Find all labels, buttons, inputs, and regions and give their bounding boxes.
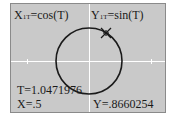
x-equation-label: X1T=cos(T) (14, 9, 69, 23)
trace-t-value: T=1.0471976 (17, 84, 82, 96)
trace-y-value: Y=.8660254 (93, 98, 153, 110)
calculator-graph-screen: X1T=cos(T) Y1T=sin(T) T=1.0471976 X=.5 Y… (10, 3, 166, 113)
trace-cursor-icon (101, 28, 111, 38)
y-equation-label: Y1T=sin(T) (91, 9, 144, 23)
trace-x-value: X=.5 (17, 98, 41, 110)
